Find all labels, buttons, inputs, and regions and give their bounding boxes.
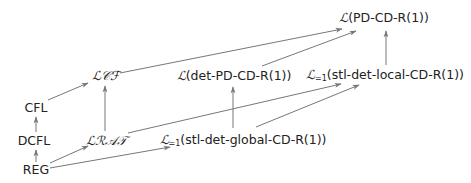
arrow-reg-to-lrat [50, 146, 88, 163]
node-stlglobal: ℒ=1(stl-det-global-CD-R(1)) [160, 134, 327, 148]
node-symbol: ℒℛ𝒜𝒯 [86, 133, 127, 148]
node-label: (stl-det-global-CD-R(1)) [180, 132, 326, 147]
arrow-cfl-to-lcf [48, 83, 88, 100]
node-symbol: ℒ [306, 67, 315, 82]
edges-layer [0, 0, 471, 183]
node-symbol: ℒ [177, 68, 186, 83]
node-subscript: =1 [315, 74, 327, 83]
node-lcf: ℒ𝒞ℱ [92, 70, 120, 83]
node-pdcdr1: ℒ(PD-CD-R(1)) [339, 12, 429, 25]
node-label: REG [23, 162, 49, 177]
arrow-lrat-to-stllocal [128, 84, 341, 133]
node-label: DCFL [18, 133, 51, 148]
node-cfl: CFL [25, 102, 48, 115]
node-label: (det-PD-CD-R(1)) [186, 68, 292, 83]
arrow-reg-to-stlglobal [50, 147, 170, 168]
node-reg: REG [23, 164, 49, 177]
node-detpd: ℒ(det-PD-CD-R(1)) [177, 70, 292, 83]
node-symbol: ℒ𝒞ℱ [92, 68, 120, 83]
node-stllocal: ℒ=1(stl-det-local-CD-R(1)) [306, 69, 464, 83]
node-lrat: ℒℛ𝒜𝒯 [86, 135, 127, 148]
node-label: (stl-det-local-CD-R(1)) [327, 67, 464, 82]
node-dcfl: DCFL [18, 135, 51, 148]
node-label: (PD-CD-R(1)) [348, 10, 429, 25]
node-symbol: ℒ [339, 10, 348, 25]
node-subscript: =1 [169, 139, 181, 148]
arrow-detpd-to-pdcdr1 [262, 31, 356, 66]
node-label: CFL [25, 100, 48, 115]
node-symbol: ℒ [160, 132, 169, 147]
